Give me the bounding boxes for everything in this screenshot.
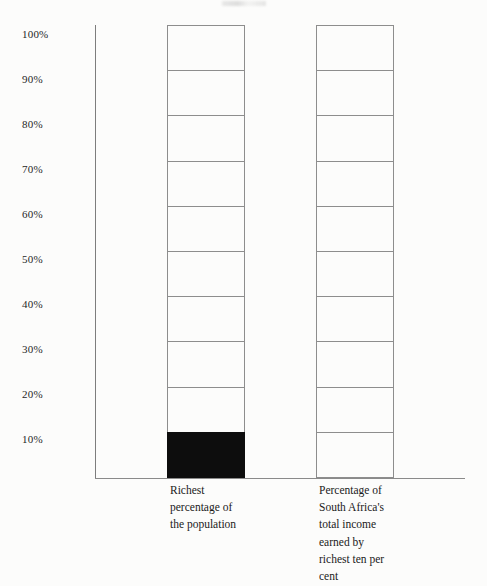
bar-segment — [316, 387, 394, 433]
bar-segment — [316, 341, 394, 387]
bar-segment — [167, 341, 245, 387]
bar-segment — [167, 161, 245, 207]
bar-segment — [316, 25, 394, 71]
chart-canvas: 100% 90% 80% 70% 60% 50% 40% 30% 20% 10%… — [0, 0, 487, 586]
y-axis-tick-70: 70% — [22, 164, 82, 175]
caption-line: earned by — [319, 534, 449, 551]
y-axis-tick-40: 40% — [22, 299, 82, 310]
y-axis-tick-60: 60% — [22, 209, 82, 220]
bar-segment — [167, 25, 245, 71]
bar-segment — [316, 206, 394, 252]
y-axis-tick-50: 50% — [22, 254, 82, 265]
bar-segment — [167, 387, 245, 433]
caption-line: percentage of — [170, 499, 290, 516]
bar-richest-percentage-population[interactable] — [167, 25, 245, 478]
bar-segment — [316, 161, 394, 207]
bar-segment — [316, 432, 394, 478]
y-axis-tick-30: 30% — [22, 344, 82, 355]
caption-line: South Africa's — [319, 499, 449, 516]
caption-line: cent — [319, 568, 449, 585]
bar-caption-richest-percentage-population: Richest percentage of the population — [170, 482, 290, 534]
bar-percentage-total-income[interactable] — [316, 25, 394, 478]
y-axis-tick-90: 90% — [22, 74, 82, 85]
caption-line: richest ten per — [319, 551, 449, 568]
y-axis-tick-10: 10% — [22, 434, 82, 445]
bar-segment — [167, 206, 245, 252]
bar-caption-percentage-total-income: Percentage of South Africa's total incom… — [319, 482, 449, 585]
x-axis-line — [95, 478, 465, 479]
bar-segment — [167, 70, 245, 116]
bar-segment — [316, 115, 394, 161]
caption-line: Richest — [170, 482, 290, 499]
bar-segment-filled — [167, 432, 245, 478]
y-axis-tick-80: 80% — [22, 119, 82, 130]
bar-segment — [316, 70, 394, 116]
bar-segment — [316, 296, 394, 342]
y-axis-tick-20: 20% — [22, 389, 82, 400]
caption-line: Percentage of — [319, 482, 449, 499]
bar-segment — [167, 296, 245, 342]
scan-artifact — [222, 1, 266, 6]
y-axis-line — [95, 25, 96, 478]
caption-line: total income — [319, 516, 449, 533]
bar-segment — [316, 251, 394, 297]
y-axis-tick-100: 100% — [22, 29, 82, 40]
bar-segment — [167, 251, 245, 297]
bar-segment — [167, 115, 245, 161]
caption-line: the population — [170, 516, 290, 533]
